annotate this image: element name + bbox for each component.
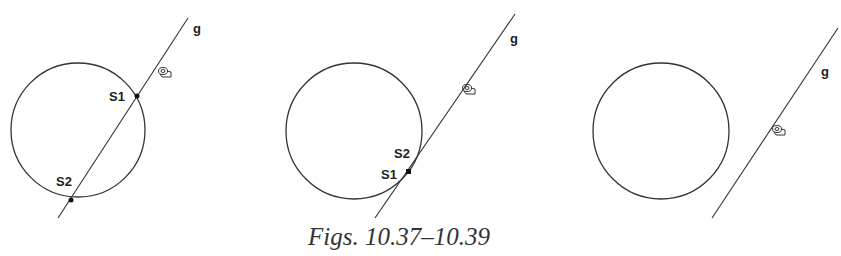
figure-disjoint: g [593,28,838,218]
hand-pointer-icon[interactable] [159,68,172,78]
label-s2: S2 [394,146,410,161]
point-s2[interactable] [69,198,74,203]
circle [593,63,729,199]
label-s2: S2 [56,174,72,189]
label-g: g [821,64,829,79]
figure-panel: S1 S2 g S2 S1 g g Figs. 10.37 [0,0,841,256]
label-g: g [193,21,201,36]
label-s1: S1 [381,167,397,182]
point-s1[interactable] [135,94,140,99]
line-g[interactable] [712,28,838,218]
point-s1-s2[interactable] [406,169,411,174]
line-g[interactable] [375,14,515,218]
figure-secant: S1 S2 g [11,18,201,218]
circle [11,63,145,197]
hand-pointer-icon[interactable] [463,85,476,95]
figure-tangent: S2 S1 g [286,14,518,218]
hand-pointer-icon[interactable] [773,126,786,136]
label-s1: S1 [109,89,125,104]
label-g: g [510,31,518,46]
diagram-canvas: S1 S2 g S2 S1 g g Figs. 10.37 [0,0,841,256]
figure-caption: Figs. 10.37–10.39 [307,223,490,250]
line-g[interactable] [58,18,188,218]
